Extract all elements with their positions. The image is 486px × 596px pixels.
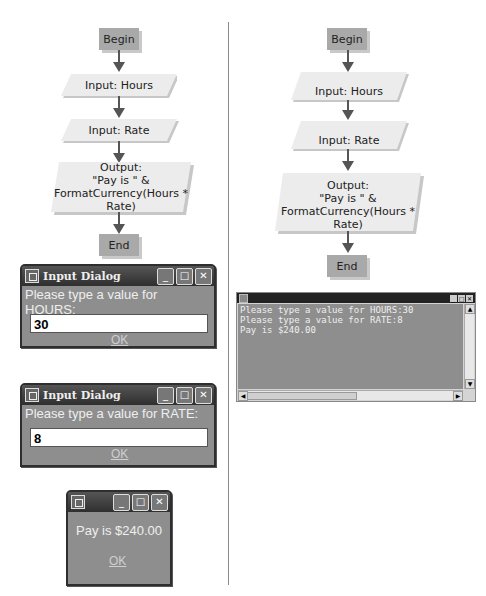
close-icon: ✕ <box>199 390 207 400</box>
output-shape: Output: "Pay is " & FormatCurrency(Hours… <box>275 173 421 231</box>
input-rate-label: Input: Rate <box>89 124 150 137</box>
arrow-down-icon <box>113 108 125 118</box>
minimize-icon: _ <box>119 497 124 507</box>
output-line: Output: <box>327 179 369 192</box>
hours-input[interactable]: 30 <box>30 314 208 333</box>
input-dialog-rate: Input Dialog _ □ ✕ Please type a value f… <box>20 383 216 467</box>
console-window: _ □ ✕ Please type a value for HOURS:30Pl… <box>236 292 476 402</box>
minimize-button[interactable]: _ <box>450 295 457 302</box>
maximize-button[interactable]: □ <box>176 268 193 285</box>
minimize-icon: _ <box>163 271 168 281</box>
output-line: FormatCurrency(Hours * Rate) <box>275 205 421 231</box>
dialog-prompt: Please type a value for RATE: <box>22 405 214 422</box>
maximize-button[interactable]: □ <box>176 387 193 404</box>
end-terminal: End <box>99 234 139 256</box>
dialog-titlebar: Input Dialog _ □ ✕ <box>22 266 214 286</box>
console-line: Pay is $240.00 <box>240 325 461 335</box>
minimize-button[interactable]: _ <box>157 268 174 285</box>
panel-divider <box>228 22 229 585</box>
begin-terminal: Begin <box>99 28 139 50</box>
ok-button[interactable]: OK <box>111 447 128 461</box>
begin-label: Begin <box>103 33 134 46</box>
console-line: Please type a value for RATE:8 <box>240 315 461 325</box>
dialog-title: Input Dialog <box>43 389 121 402</box>
message-dialog-result: _ □ ✕ Pay is $240.00 OK <box>66 490 172 586</box>
scrollbar-thumb[interactable] <box>247 392 357 400</box>
maximize-button[interactable]: □ <box>458 295 465 302</box>
app-icon <box>25 269 39 283</box>
arrow-down-icon <box>342 161 354 171</box>
console-titlebar: _ □ ✕ <box>237 293 475 303</box>
maximize-icon: □ <box>180 390 189 400</box>
input-rate-label: Input: Rate <box>319 134 380 147</box>
maximize-icon: □ <box>180 271 189 281</box>
dialog-title: Input Dialog <box>43 270 121 283</box>
input-hours-label: Input: Hours <box>315 85 383 98</box>
rate-input[interactable]: 8 <box>30 428 208 447</box>
maximize-icon: □ <box>136 497 145 507</box>
result-message: Pay is $240.00 <box>68 523 170 538</box>
arrow-down-icon <box>342 62 354 72</box>
begin-label: Begin <box>331 33 362 46</box>
arrow-down-icon <box>113 62 125 72</box>
close-button[interactable]: ✕ <box>195 387 212 404</box>
output-line: "Pay is " & <box>92 174 149 187</box>
input-rate-shape: Input: Rate <box>61 119 177 141</box>
minimize-icon: _ <box>163 390 168 400</box>
input-dialog-hours: Input Dialog _ □ ✕ Please type a value f… <box>20 264 216 348</box>
input-hours-shape: Input: Hours <box>291 72 407 100</box>
output-shape: Output: "Pay is " & FormatCurrency(Hours… <box>51 162 191 212</box>
dialog-titlebar: Input Dialog _ □ ✕ <box>22 385 214 405</box>
console-line: Please type a value for HOURS:30 <box>240 305 461 315</box>
close-button[interactable]: ✕ <box>466 295 473 302</box>
minimize-button[interactable]: _ <box>157 387 174 404</box>
output-line: Output: <box>100 161 142 174</box>
close-icon: ✕ <box>155 497 163 507</box>
arrow-down-icon <box>113 224 125 234</box>
input-hours-label: Input: Hours <box>85 79 153 92</box>
minimize-button[interactable]: _ <box>113 494 130 511</box>
arrow-down-icon <box>342 110 354 120</box>
scroll-down-icon[interactable]: ▼ <box>465 379 475 389</box>
maximize-button[interactable]: □ <box>132 494 149 511</box>
horizontal-scrollbar[interactable]: ◀ ▶ <box>238 390 463 400</box>
app-icon <box>71 495 85 509</box>
end-label: End <box>109 239 130 252</box>
input-rate-shape: Input: Rate <box>291 121 407 149</box>
vertical-scrollbar[interactable]: ▲ ▼ <box>464 304 474 389</box>
dialog-titlebar: _ □ ✕ <box>68 492 170 512</box>
app-icon <box>25 388 39 402</box>
output-line: FormatCurrency(Hours * Rate) <box>51 187 191 213</box>
input-hours-shape: Input: Hours <box>61 74 177 96</box>
scroll-up-icon[interactable]: ▲ <box>465 304 475 314</box>
scroll-right-icon[interactable]: ▶ <box>453 391 463 401</box>
console-output: Please type a value for HOURS:30Please t… <box>238 304 463 389</box>
arrow-down-icon <box>342 243 354 253</box>
ok-button[interactable]: OK <box>111 333 128 347</box>
close-button[interactable]: ✕ <box>151 494 168 511</box>
ok-button[interactable]: OK <box>109 554 126 568</box>
end-label: End <box>337 260 358 273</box>
output-line: "Pay is " & <box>319 192 376 205</box>
begin-terminal: Begin <box>327 28 367 50</box>
app-icon <box>239 294 248 303</box>
close-icon: ✕ <box>199 271 207 281</box>
close-button[interactable]: ✕ <box>195 268 212 285</box>
end-terminal: End <box>327 255 367 277</box>
